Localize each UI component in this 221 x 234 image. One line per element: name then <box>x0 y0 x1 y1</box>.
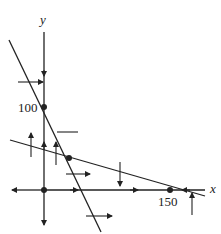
y-axis-label: y <box>38 12 46 27</box>
shallow-nullcline <box>10 140 205 196</box>
phase-plane-diagram: y x 100 150 <box>0 0 221 234</box>
y-axis: y <box>38 12 46 225</box>
y-axis-equilibrium-dot <box>41 104 47 110</box>
x-axis-label: x <box>209 181 216 196</box>
steep-nullcline <box>9 40 101 232</box>
y-intercept-label: 100 <box>18 100 38 115</box>
interior-equilibrium-dot <box>66 155 72 161</box>
x-axis-equilibrium-dot <box>167 187 173 193</box>
x-intercept-label: 150 <box>158 194 178 209</box>
axis-flow-arrows <box>44 70 190 190</box>
origin-equilibrium-dot <box>41 187 47 193</box>
